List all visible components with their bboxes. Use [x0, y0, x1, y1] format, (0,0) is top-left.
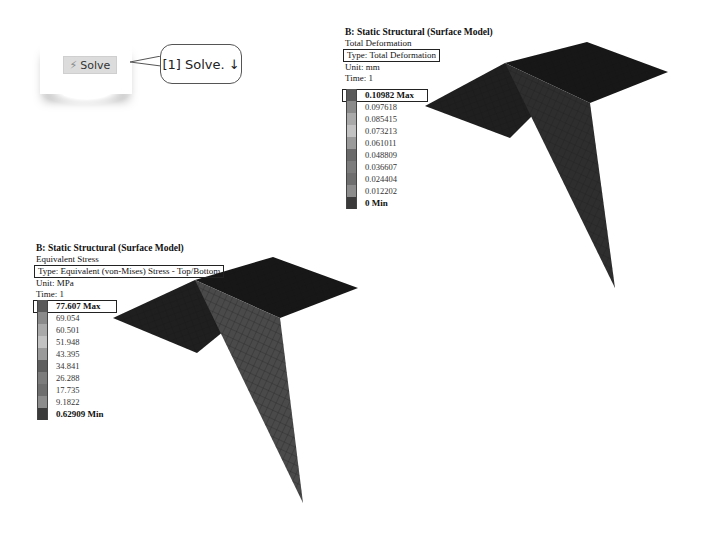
result-type: Type: Total Deformation — [343, 49, 440, 62]
legend-swatch — [37, 360, 48, 372]
equivalent-stress-legend: 77.607 Max69.05460.50151.94843.39534.841… — [37, 300, 104, 420]
legend-swatch — [37, 300, 48, 312]
legend-label: 34.841 — [56, 361, 79, 371]
equivalent-stress-info: B: Static Structural (Surface Model) Equ… — [36, 243, 224, 300]
legend-label: 51.948 — [56, 337, 79, 347]
legend-label: 0.097618 — [365, 102, 397, 112]
legend-label: 0.62909 Min — [56, 409, 104, 419]
legend-swatch — [37, 336, 48, 348]
legend-row: 0.097618 — [346, 101, 414, 113]
legend-row: 26.288 — [37, 372, 104, 384]
legend-label: 0.061011 — [365, 138, 397, 148]
legend-swatch — [346, 173, 357, 185]
legend-label: 69.054 — [56, 313, 79, 323]
legend-swatch — [346, 137, 357, 149]
total-deformation-info: B: Static Structural (Surface Model) Tot… — [345, 27, 493, 84]
legend-row: 77.607 Max — [37, 300, 104, 312]
legend-row: 0.048809 — [346, 149, 414, 161]
legend-row: 0.62909 Min — [37, 408, 104, 420]
legend-row: 0.085415 — [346, 113, 414, 125]
legend-label: 0.073213 — [365, 126, 397, 136]
legend-swatch — [346, 89, 357, 101]
legend-label: 0.024404 — [365, 174, 397, 184]
legend-label: 0.036607 — [365, 162, 397, 172]
total-deformation-legend: 0.10982 Max0.0976180.0854150.0732130.061… — [346, 89, 414, 209]
legend-swatch — [37, 372, 48, 384]
legend-label: 9.1822 — [56, 397, 79, 407]
legend-row: 34.841 — [37, 360, 104, 372]
analysis-title: B: Static Structural (Surface Model) — [36, 243, 224, 254]
legend-row: 0.073213 — [346, 125, 414, 137]
legend-row: 9.1822 — [37, 396, 104, 408]
legend-row: 69.054 — [37, 312, 104, 324]
legend-swatch — [346, 149, 357, 161]
result-name: Equivalent Stress — [36, 254, 224, 265]
legend-row: 17.735 — [37, 384, 104, 396]
legend-row: 0.061011 — [346, 137, 414, 149]
legend-swatch — [37, 312, 48, 324]
legend-label: 0.10982 Max — [365, 90, 414, 100]
legend-label: 17.735 — [56, 385, 79, 395]
legend-swatch — [37, 396, 48, 408]
legend-label: 0.085415 — [365, 114, 397, 124]
legend-swatch — [346, 161, 357, 173]
legend-swatch — [346, 185, 357, 197]
result-type: Type: Equivalent (von-Mises) Stress - To… — [34, 265, 224, 278]
legend-row: 0.024404 — [346, 173, 414, 185]
legend-swatch — [346, 113, 357, 125]
legend-swatch — [346, 125, 357, 137]
legend-swatch — [37, 384, 48, 396]
legend-label: 43.395 — [56, 349, 79, 359]
legend-swatch — [37, 408, 48, 420]
legend-label: 26.288 — [56, 373, 79, 383]
legend-row: 51.948 — [37, 336, 104, 348]
result-name: Total Deformation — [345, 38, 493, 49]
legend-row: 0.10982 Max — [346, 89, 414, 101]
legend-row: 60.501 — [37, 324, 104, 336]
legend-row: 0.036607 — [346, 161, 414, 173]
legend-label: 0.048809 — [365, 150, 397, 160]
legend-label: 60.501 — [56, 325, 79, 335]
result-time: Time: 1 — [345, 73, 493, 84]
result-time: Time: 1 — [36, 289, 224, 300]
legend-row: 43.395 — [37, 348, 104, 360]
legend-swatch — [37, 324, 48, 336]
legend-label: 0 Min — [365, 198, 388, 208]
legend-label: 0.012202 — [365, 186, 397, 196]
result-unit: Unit: mm — [345, 62, 493, 73]
legend-label: 77.607 Max — [56, 301, 101, 311]
legend-row: 0 Min — [346, 197, 414, 209]
analysis-title: B: Static Structural (Surface Model) — [345, 27, 493, 38]
legend-swatch — [346, 101, 357, 113]
legend-row: 0.012202 — [346, 185, 414, 197]
legend-swatch — [37, 348, 48, 360]
result-unit: Unit: MPa — [36, 278, 224, 289]
legend-swatch — [346, 197, 357, 209]
